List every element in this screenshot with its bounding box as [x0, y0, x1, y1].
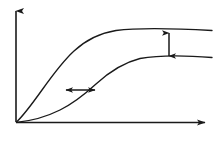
lower-curve	[17, 56, 213, 123]
sigmoid-comparison-diagram	[0, 0, 219, 143]
figure-container	[0, 0, 219, 143]
upper-curve	[17, 29, 213, 122]
